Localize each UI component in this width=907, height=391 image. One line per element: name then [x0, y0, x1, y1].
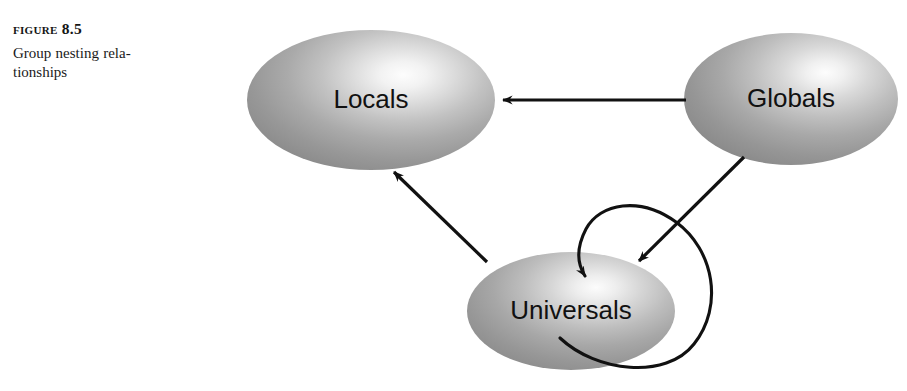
- figure-container: Figure 8.5 Group nesting rela-tionships: [0, 0, 907, 391]
- edge-universals-to-locals[interactable]: [394, 172, 487, 262]
- node-locals[interactable]: Locals: [247, 30, 495, 170]
- group-nesting-diagram: Locals Globals Universals: [0, 0, 907, 391]
- universals-label: Universals: [510, 295, 631, 325]
- universals-to-locals-line: [394, 172, 487, 262]
- globals-label: Globals: [747, 83, 835, 113]
- locals-label: Locals: [333, 84, 408, 114]
- node-globals[interactable]: Globals: [684, 33, 898, 165]
